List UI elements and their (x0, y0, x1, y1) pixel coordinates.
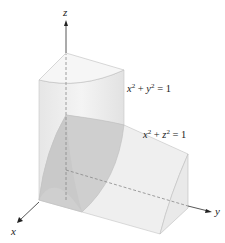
equation-vertical-cylinder: x2 + y2 = 1 (127, 83, 171, 94)
x-axis-label: x (11, 225, 16, 237)
two-cylinders-diagram: z y x x2 + y2 = 1 x2 + z2 = 1 (0, 0, 225, 243)
y-axis-arrow-icon (205, 209, 212, 213)
diagram-graphic (0, 0, 225, 243)
y-axis-label: y (215, 205, 220, 217)
equation-horizontal-cylinder: x2 + z2 = 1 (143, 129, 186, 140)
z-axis-label: z (63, 6, 67, 18)
z-axis-arrow-icon (64, 20, 68, 26)
